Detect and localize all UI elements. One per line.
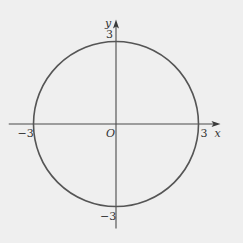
y-tick-label: 3 — [106, 28, 113, 41]
origin-label: O — [106, 127, 115, 140]
chart-canvas: x y O −33 3−3 — [0, 0, 243, 243]
x-tick-label: 3 — [201, 127, 208, 140]
y-tick-label: −3 — [100, 210, 116, 223]
x-axis-label: x — [215, 127, 222, 140]
y-tick-labels: 3−3 — [100, 28, 116, 223]
x-tick-label: −3 — [18, 127, 34, 140]
